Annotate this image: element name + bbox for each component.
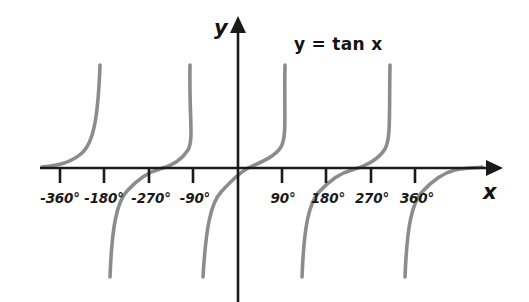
x-tick-label-minus-180: -180° — [84, 190, 124, 206]
x-axis-arrowhead — [486, 160, 503, 176]
x-tick-label-180: 180° — [311, 190, 345, 206]
tangent-branch-left-outer — [42, 65, 100, 167]
x-tick-label-360: 360° — [400, 190, 434, 206]
x-tick-label-270: 270° — [355, 190, 389, 206]
tangent-function-graph: -360° -180° -270° -90° 90° 180° 270° 360… — [0, 0, 529, 302]
tangent-branch-5 — [405, 167, 482, 277]
x-tick-label-minus-270: -270° — [131, 190, 171, 206]
equation-annotation: y = tan x — [294, 34, 382, 54]
tangent-branch-3 — [203, 65, 285, 277]
tangent-branch-2 — [110, 65, 191, 277]
x-tick-label-minus-360: -360° — [40, 190, 80, 206]
x-axis-label: x — [483, 180, 497, 204]
y-axis-arrowhead — [230, 16, 246, 33]
x-tick-label-90: 90° — [271, 190, 296, 206]
y-axis-label: y — [214, 16, 228, 40]
tangent-branch-4 — [302, 65, 390, 277]
plot-canvas — [0, 0, 529, 302]
x-tick-label-minus-90: -90° — [180, 190, 210, 206]
